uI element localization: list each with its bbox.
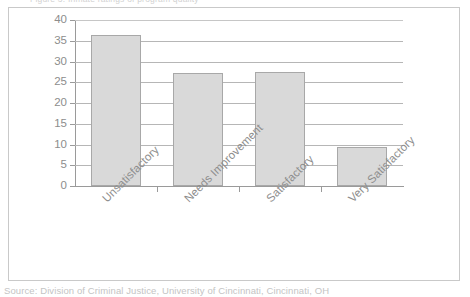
x-axis-tick [321, 187, 322, 192]
y-axis-tick-label: 15 [21, 118, 67, 130]
clipped-heading-strip: Figure 3. Inmate ratings of program qual… [0, 0, 470, 7]
y-axis-tick-label: 10 [21, 139, 67, 151]
x-axis-tick [157, 187, 158, 192]
clipped-heading-text: Figure 3. Inmate ratings of program qual… [30, 0, 199, 4]
x-axis-tick [239, 187, 240, 192]
y-axis-tick [70, 82, 75, 83]
y-axis-tick [70, 20, 75, 21]
y-axis-tick-label: 5 [21, 159, 67, 171]
gridline [75, 20, 403, 21]
y-axis-tick [70, 62, 75, 63]
figure-frame: 4035302520151050 UnsatisfactoryNeeds Imp… [8, 7, 460, 281]
y-axis-tick [70, 124, 75, 125]
y-axis-tick [70, 165, 75, 166]
y-axis-tick [70, 186, 75, 187]
source-caption-strip: Source: Division of Criminal Justice, Un… [0, 285, 470, 297]
plot-area [75, 20, 403, 186]
y-axis-tick-label: 25 [21, 76, 67, 88]
y-axis-tick [70, 103, 75, 104]
y-axis-tick-labels: 4035302520151050 [17, 8, 67, 198]
y-axis-tick-label: 30 [21, 56, 67, 68]
y-axis-tick-label: 35 [21, 35, 67, 47]
y-axis-tick [70, 41, 75, 42]
y-axis-tick-label: 20 [21, 97, 67, 109]
y-axis-tick [70, 145, 75, 146]
x-axis-category-labels: UnsatisfactoryNeeds ImprovementSatisfact… [9, 186, 461, 282]
source-caption-text: Source: Division of Criminal Justice, Un… [4, 285, 329, 296]
y-axis-tick-label: 40 [21, 14, 67, 26]
